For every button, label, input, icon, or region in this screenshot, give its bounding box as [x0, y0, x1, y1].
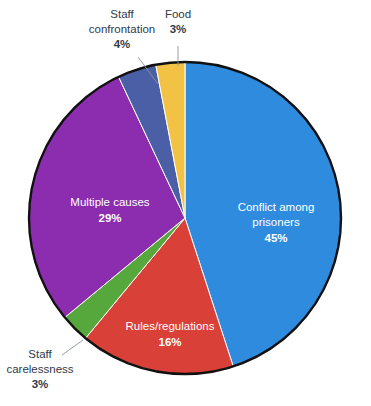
conflict-percent: 45% [264, 232, 287, 244]
staff-carelessness-percent: 3% [32, 378, 49, 390]
pie-chart-figure: Staff confrontation 4% Food 3% Staff car… [0, 0, 371, 406]
food-percent: 3% [170, 23, 187, 35]
pie-chart-svg: Staff confrontation 4% Food 3% Staff car… [0, 0, 371, 406]
conflict-label-line2: prisoners [252, 216, 300, 228]
staff-carelessness-label-line2: carelessness [6, 363, 73, 375]
multiple-causes-percent: 29% [98, 212, 121, 224]
leader-line-staff-carelessness [62, 340, 83, 355]
conflict-label-line1: Conflict among [238, 201, 315, 213]
staff-confrontation-percent: 4% [114, 38, 131, 50]
food-label-line1: Food [165, 8, 191, 20]
callout-staff-confrontation: Staff confrontation 4% [89, 8, 156, 50]
rules-label-line1: Rules/regulations [126, 320, 215, 332]
staff-carelessness-label-line1: Staff [28, 348, 52, 360]
multiple-causes-label-line1: Multiple causes [70, 196, 150, 208]
staff-confrontation-label-line2: confrontation [89, 23, 156, 35]
rules-percent: 16% [158, 336, 181, 348]
staff-confrontation-label-line1: Staff [110, 8, 134, 20]
callout-food: Food 3% [165, 8, 191, 35]
